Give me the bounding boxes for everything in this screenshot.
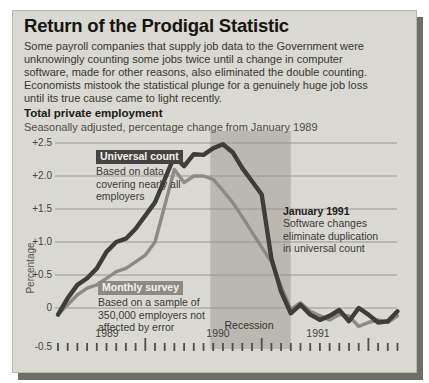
- y-axis-title: Percentage: [25, 242, 36, 293]
- universal-count-tag: Universal count: [96, 150, 183, 164]
- graphic: Return of the Prodigal Statistic Some pa…: [0, 0, 429, 383]
- annotation-title: January 1991: [283, 205, 387, 217]
- y-tick-label: +2.0: [22, 170, 52, 181]
- monthly-survey-note: Based on a sample of 350,000 employers n…: [98, 296, 210, 334]
- chart-description: Some payroll companies that supply job d…: [24, 40, 372, 105]
- y-tick-label: +2.5: [22, 137, 52, 148]
- x-year-label: 1991: [306, 327, 329, 339]
- y-tick-label: +1.5: [22, 203, 52, 214]
- legend-universal-count: Universal count Based on data covering n…: [96, 146, 183, 203]
- legend-monthly-survey: Monthly survey Based on a sample of 350,…: [98, 277, 210, 334]
- page-title: Return of the Prodigal Statistic: [24, 15, 289, 37]
- recession-label: Recession: [224, 319, 273, 331]
- chart-subtitle: Seasonally adjusted, percentage change f…: [24, 121, 318, 133]
- annotation-january-1991: January 1991 Software changes eliminate …: [283, 205, 387, 255]
- y-tick-label: -0.5: [22, 341, 52, 352]
- universal-count-note: Based on data covering nearly all employ…: [96, 165, 182, 203]
- annotation-text: Software changes eliminate duplication i…: [283, 217, 387, 255]
- chart-title: Total private employment: [24, 107, 162, 119]
- y-tick-label: 0: [22, 302, 52, 313]
- monthly-survey-tag: Monthly survey: [98, 281, 183, 295]
